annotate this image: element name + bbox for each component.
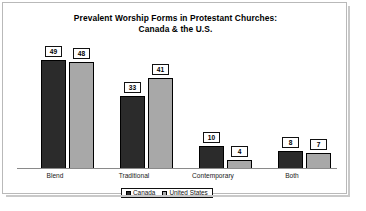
chart-title: Prevalent Worship Forms in Protestant Ch… [3, 13, 348, 35]
bar-united-states-both[interactable] [306, 153, 331, 169]
bar-united-states-blend[interactable] [69, 62, 94, 169]
value-label-united-states-contemporary: 4 [231, 146, 248, 157]
chart-title-line-1: Prevalent Worship Forms in Protestant Ch… [3, 13, 348, 24]
chart-frame: Prevalent Worship Forms in Protestant Ch… [2, 2, 347, 194]
chart-title-line-2: Canada & the U.S. [3, 24, 348, 35]
bar-canada-contemporary[interactable] [199, 146, 224, 169]
bar-canada-blend[interactable] [41, 60, 66, 169]
value-label-canada-contemporary: 10 [203, 132, 220, 143]
bar-pair-both: 8 7 [272, 45, 346, 169]
bar-united-states-traditional[interactable] [148, 78, 173, 169]
bar-pair-contemporary: 10 4 [193, 45, 267, 169]
value-label-united-states-blend: 48 [73, 48, 90, 59]
value-label-canada-traditional: 33 [124, 82, 141, 93]
bar-group-contemporary: 10 4 [193, 45, 267, 169]
bar-group-blend: 49 48 [35, 45, 109, 169]
bar-group-traditional: 33 41 [114, 45, 188, 169]
x-axis-line [17, 168, 337, 169]
bar-canada-both[interactable] [278, 151, 303, 169]
frame-shadow-bottom [6, 195, 350, 197]
value-label-united-states-traditional: 41 [152, 64, 169, 75]
bar-pair-traditional: 33 41 [114, 45, 188, 169]
frame-shadow-right [348, 6, 350, 197]
bar-canada-traditional[interactable] [120, 96, 145, 169]
bar-pair-blend: 49 48 [35, 45, 109, 169]
plot-area: 49 48 33 41 10 4 8 [17, 45, 335, 169]
value-label-canada-both: 8 [282, 137, 299, 148]
value-label-united-states-both: 7 [310, 139, 327, 150]
value-label-canada-blend: 49 [45, 46, 62, 57]
bar-group-both: 8 7 [272, 45, 346, 169]
x-tick-label-both: Both [244, 172, 340, 179]
